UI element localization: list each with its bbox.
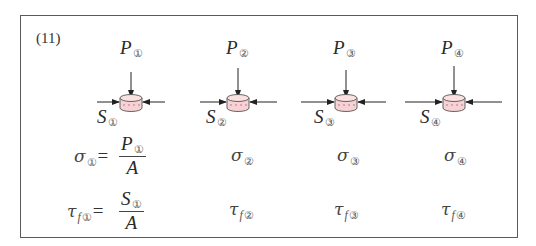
shear-label-1: S① [97, 106, 118, 128]
load-label-2: P② [226, 37, 249, 59]
stress-formula-1-lhs: σ①= [74, 145, 108, 167]
stress-2: σ② [231, 145, 254, 165]
shear-stress-3: τf③ [334, 199, 359, 219]
stress-formula-1-fraction: P① A [119, 134, 146, 179]
shear-stress-2: τf② [229, 199, 254, 219]
stress-4: σ④ [444, 145, 467, 165]
specimen-2 [200, 68, 277, 112]
load-label-1: P① [120, 37, 143, 59]
shear-stress-4: τf④ [441, 199, 466, 219]
shear-label-2: S② [206, 106, 227, 128]
shear-stress-formula-1-lhs: τf①= [67, 200, 103, 222]
stress-3: σ③ [337, 145, 360, 165]
specimen-4 [405, 66, 502, 112]
shear-stress-formula-1-fraction: S① A [119, 189, 144, 234]
load-label-4: P④ [441, 37, 464, 59]
shear-label-4: S④ [420, 106, 441, 128]
shear-label-3: S③ [314, 106, 335, 128]
load-label-3: P③ [333, 37, 356, 59]
